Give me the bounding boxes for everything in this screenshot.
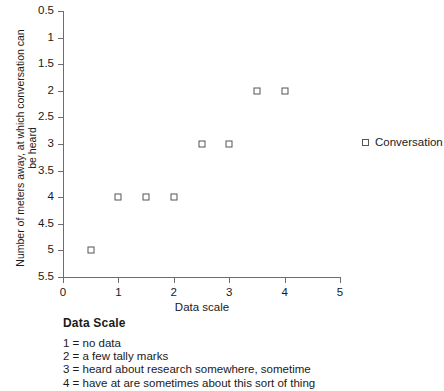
y-axis-title: Number of meters away, at which conversa… [14, 28, 38, 268]
data-point-marker [226, 141, 233, 148]
y-tick-label: 1 [48, 32, 54, 44]
data-point-marker [281, 87, 288, 94]
data-point-marker [143, 194, 150, 201]
x-tick-label: 2 [171, 287, 177, 299]
x-tick-label: 3 [226, 287, 232, 299]
y-tick-label: 5.5 [38, 271, 54, 283]
footnote-line: 3 = heard about research somewhere, some… [63, 364, 403, 376]
y-tick-mark [58, 224, 63, 225]
data-point-marker [198, 141, 205, 148]
x-tick-label: 1 [115, 287, 121, 299]
y-tick-label: 3.5 [38, 165, 54, 177]
y-tick-mark [58, 64, 63, 65]
y-tick-mark [58, 91, 63, 92]
y-tick-mark [58, 197, 63, 198]
x-axis-title: Data scale [63, 301, 341, 313]
footnote-line: 2 = a few tally marks [63, 351, 403, 363]
y-tick-mark [58, 171, 63, 172]
x-tick-mark [229, 278, 230, 283]
x-axis-line [63, 277, 341, 278]
y-tick-label: 4.5 [38, 218, 54, 230]
footnote-lines: 1 = no data2 = a few tally marks3 = hear… [63, 338, 403, 389]
data-point-marker [170, 194, 177, 201]
y-tick-mark [58, 38, 63, 39]
y-tick-label: 0.5 [38, 5, 54, 17]
x-tick-mark [174, 278, 175, 283]
y-tick-label: 2 [48, 85, 54, 97]
x-tick-mark [285, 278, 286, 283]
x-tick-mark [340, 278, 341, 283]
data-scale-footnote: Data Scale 1 = no data2 = a few tally ma… [63, 316, 403, 391]
footnote-title: Data Scale [63, 316, 403, 330]
x-tick-mark [118, 278, 119, 283]
y-tick-label: 1.5 [38, 58, 54, 70]
data-point-marker [253, 87, 260, 94]
y-tick-label: 5 [48, 244, 54, 256]
y-tick-label: 4 [48, 191, 54, 203]
y-axis-line [63, 11, 64, 278]
y-tick-mark [58, 250, 63, 251]
x-tick-label: 4 [281, 287, 287, 299]
legend-label-conversation: Conversation [375, 136, 443, 148]
y-tick-mark [58, 144, 63, 145]
x-tick-mark [63, 278, 64, 283]
data-point-marker [115, 194, 122, 201]
x-tick-label: 5 [337, 287, 343, 299]
data-point-marker [87, 247, 94, 254]
y-tick-label: 3 [48, 138, 54, 150]
y-tick-label: 2.5 [38, 111, 54, 123]
y-tick-mark [58, 117, 63, 118]
x-tick-label: 0 [60, 287, 66, 299]
footnote-line: 1 = no data [63, 338, 403, 350]
legend-marker-icon [362, 139, 369, 146]
chart-legend: Conversation [362, 136, 443, 148]
y-tick-mark [58, 11, 63, 12]
footnote-line: 4 = have at are sometimes about this sor… [63, 378, 403, 390]
